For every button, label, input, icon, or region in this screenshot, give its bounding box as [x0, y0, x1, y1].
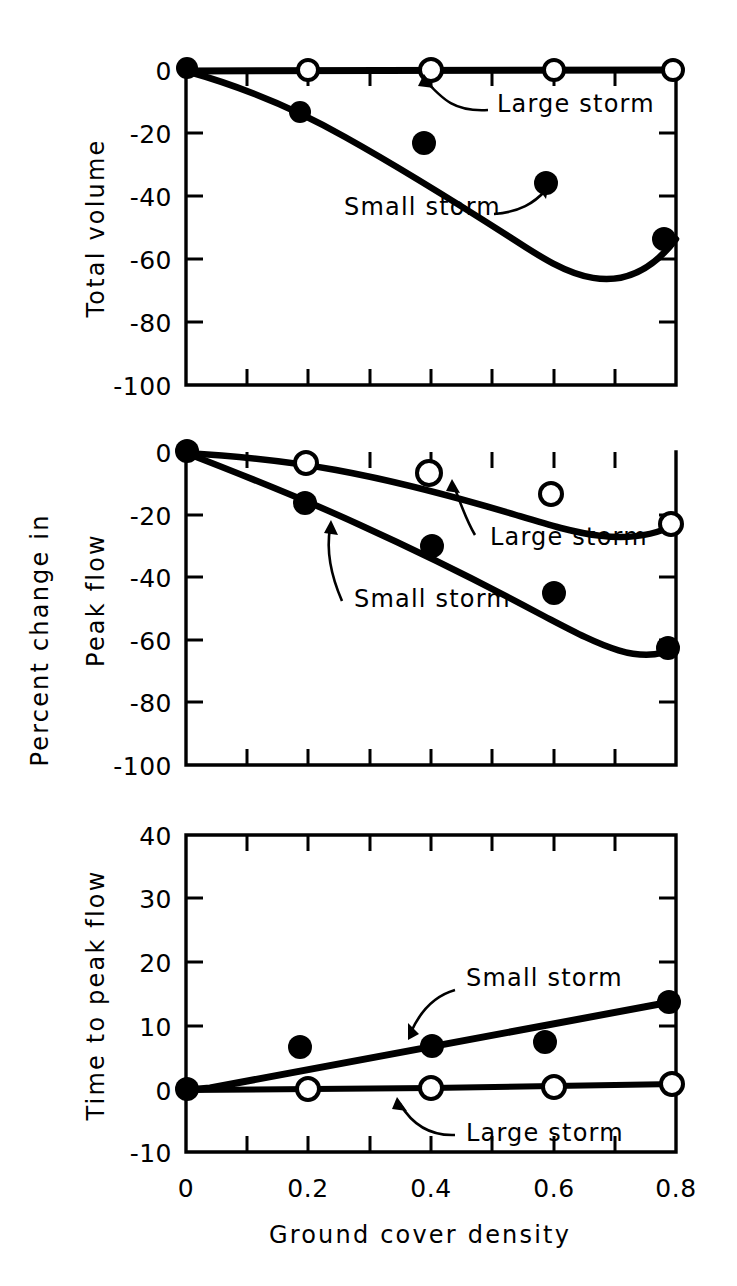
panel-top-ytick-0: 0: [156, 57, 172, 86]
panel-middle: 0 -20 -40 -60 -80 -100 Peak flow Percent…: [26, 439, 682, 781]
figure-container: 0 -20 -40 -60 -80 -100 Total volume: [0, 0, 737, 1286]
panel-bottom-ytick-neg10: -10: [130, 1139, 172, 1168]
panel-bottom-annotation-small-storm-label: Small storm: [466, 964, 623, 992]
panel-top-annotation-small-storm-label: Small storm: [344, 193, 501, 221]
panel-middle-y-axis-title: Peak flow: [82, 533, 110, 667]
shared-y-axis-supertitle: Percent change in: [26, 513, 54, 766]
panel-middle-ytick-100: -100: [113, 752, 172, 781]
panel-middle-annotation-small-storm-label: Small storm: [354, 585, 511, 613]
panel-top-annotation-large-storm: Large storm: [418, 74, 655, 118]
panel-bottom-annotation-large-storm-label: Large storm: [466, 1119, 624, 1147]
panel-bottom-ytick-30: 30: [139, 885, 172, 914]
panel-top-ytick-80: -80: [130, 309, 172, 338]
panel-bottom-annotation-large-storm: Large storm: [392, 1097, 624, 1147]
panel-bottom-xtick-02: 0.2: [287, 1174, 328, 1203]
panel-bottom-ytick-40: 40: [139, 822, 172, 851]
panel-top-annotation-small-storm: Small storm: [344, 183, 549, 221]
three-panel-line-chart: 0 -20 -40 -60 -80 -100 Total volume: [0, 0, 737, 1286]
panel-bottom-xtick-06: 0.6: [533, 1174, 574, 1203]
panel-bottom-xtick-0: 0: [178, 1174, 194, 1203]
panel-bottom-x-ticks: [247, 835, 615, 1152]
panel-top-y-ticks: [186, 133, 676, 322]
panel-bottom-ytick-0: 0: [156, 1077, 172, 1106]
panel-top-y-axis-title: Total volume: [82, 139, 110, 319]
panel-middle-annotation-small-storm: Small storm: [324, 520, 511, 613]
panel-middle-annotation-large-storm-label: Large storm: [490, 523, 648, 551]
panel-top-ytick-20: -20: [130, 120, 172, 149]
panel-bottom-xtick-08: 0.8: [655, 1174, 696, 1203]
panel-top-ytick-60: -60: [130, 246, 172, 275]
panel-middle-ytick-60: -60: [130, 627, 172, 656]
panel-bottom-y-axis-title: Time to peak flow: [82, 869, 110, 1121]
panel-middle-ytick-80: -80: [130, 689, 172, 718]
panel-bottom-ytick-10: 10: [139, 1013, 172, 1042]
panel-top-annotation-large-storm-label: Large storm: [497, 90, 655, 118]
panel-middle-ytick-20: -20: [130, 502, 172, 531]
panel-top-ytick-100: -100: [113, 372, 172, 401]
panel-middle-ytick-0: 0: [156, 439, 172, 468]
panel-top: 0 -20 -40 -60 -80 -100 Total volume: [82, 57, 683, 401]
panel-top-ytick-40: -40: [130, 183, 172, 212]
x-axis-title: Ground cover density: [269, 1221, 571, 1249]
panel-bottom-axes: [186, 835, 676, 1152]
panel-bottom-xtick-04: 0.4: [410, 1174, 451, 1203]
panel-bottom-ytick-20: 20: [139, 949, 172, 978]
panel-bottom: 40 30 20 10 0 -10 Time to peak flow 0 0.…: [82, 822, 697, 1249]
panel-middle-ytick-40: -40: [130, 564, 172, 593]
panel-bottom-y-ticks: [186, 898, 676, 1026]
